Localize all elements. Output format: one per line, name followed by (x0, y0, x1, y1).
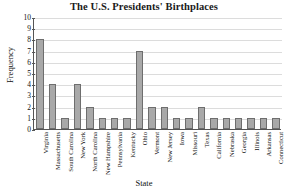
y-tick-label: 8 (0, 36, 31, 44)
bar-slot (183, 17, 195, 129)
bar (36, 39, 43, 129)
bar (123, 118, 130, 129)
x-tick-label-slot: Arkansas (256, 131, 268, 177)
bar-slot (59, 17, 71, 129)
x-tick-label-slot: Nebraska (219, 131, 231, 177)
y-tick-label: 10 (0, 14, 31, 22)
bar (86, 107, 93, 129)
bar (260, 118, 267, 129)
bar-series (34, 17, 282, 129)
x-tick-label-slot: Texas (194, 131, 206, 177)
chart-title: The U.S. Presidents' Birthplaces (0, 0, 288, 14)
x-tick-label-slot: Pennsylvania (107, 131, 119, 177)
bar (161, 107, 168, 129)
bar-slot (133, 17, 145, 129)
bar-slot (108, 17, 120, 129)
y-tick-label: 1 (0, 115, 31, 123)
bar (247, 118, 254, 129)
bar (99, 118, 106, 129)
y-tick-label: 6 (0, 59, 31, 67)
bar (61, 118, 68, 129)
x-axis-label: State (0, 178, 288, 188)
x-tick-label-slot: Missouri (182, 131, 194, 177)
bar-slot (121, 17, 133, 129)
x-tick-label-slot: New Hampshire (95, 131, 107, 177)
bar-slot (158, 17, 170, 129)
x-tick-label-slot: Vermont (145, 131, 157, 177)
bar (136, 51, 143, 129)
bar (185, 118, 192, 129)
bar-slot (96, 17, 108, 129)
bar (49, 84, 56, 129)
bar (74, 84, 81, 129)
bar-slot (270, 17, 282, 129)
bar-slot (208, 17, 220, 129)
x-tick-label-slot: Ohio (132, 131, 144, 177)
x-axis-tick-labels: VirginiaMassachusettsSouth CarolinaNew Y… (33, 131, 281, 177)
bar-slot (146, 17, 158, 129)
y-tick-label: 3 (0, 92, 31, 100)
bar-chart: The U.S. Presidents' Birthplaces Frequen… (0, 0, 288, 193)
plot-area: 012345678910 (33, 18, 281, 130)
x-tick-label-slot: New York (70, 131, 82, 177)
y-tick-label: 5 (0, 70, 31, 78)
x-tick-label-slot: Iowa (169, 131, 181, 177)
x-tick-label-slot: Connecticut (269, 131, 281, 177)
x-tick-label-slot: Illinois (244, 131, 256, 177)
bar (223, 118, 230, 129)
y-tick-label: 2 (0, 104, 31, 112)
bar-slot (34, 17, 46, 129)
x-tick-label-slot: Virginia (33, 131, 45, 177)
bar (198, 107, 205, 129)
x-tick-label-slot: Georgia (232, 131, 244, 177)
bar (235, 118, 242, 129)
bar-slot (71, 17, 83, 129)
bar-slot (46, 17, 58, 129)
x-tick-label: Connecticut (277, 132, 284, 164)
y-tick-label: 7 (0, 48, 31, 56)
x-tick-label-slot: South Carolina (58, 131, 70, 177)
bar-slot (245, 17, 257, 129)
bar-slot (170, 17, 182, 129)
x-tick-label-slot: New Jersey (157, 131, 169, 177)
bar (148, 107, 155, 129)
bar-slot (84, 17, 96, 129)
y-tick-label: 0 (0, 126, 31, 134)
bar-slot (220, 17, 232, 129)
bar (173, 118, 180, 129)
bar-slot (233, 17, 245, 129)
x-tick-label-slot: North Carolina (83, 131, 95, 177)
bar (111, 118, 118, 129)
x-tick-label-slot: California (207, 131, 219, 177)
bar-slot (257, 17, 269, 129)
x-tick-label-slot: Kentucky (120, 131, 132, 177)
y-tick-label: 4 (0, 81, 31, 89)
x-tick-label-slot: Massachusetts (45, 131, 57, 177)
bar (272, 118, 279, 129)
bar-slot (195, 17, 207, 129)
y-tick-label: 9 (0, 25, 31, 33)
bar (210, 118, 217, 129)
